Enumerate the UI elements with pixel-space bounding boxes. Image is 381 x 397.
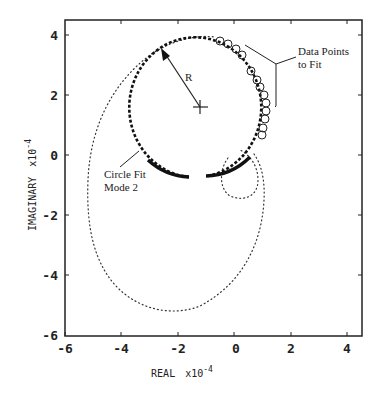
y-tick-label: 0 [50, 148, 58, 163]
x-tick-label: 2 [287, 341, 295, 356]
radius-arrow-line [164, 52, 200, 107]
y-tick-label: -4 [42, 268, 58, 283]
data-points-to-fit [216, 37, 270, 139]
y-tick-label: -6 [42, 328, 58, 343]
circle-fit-label-line2: Mode 2 [104, 181, 138, 193]
y-tick-label: -2 [42, 208, 58, 223]
x-tick-label: -2 [170, 341, 186, 356]
y-axis-title: IMAGINARY x10-4 [24, 139, 38, 231]
nyquist-plot: -6 -4 -2 0 2 4 4 2 0 -2 -4 -6 REAL x10-4… [0, 0, 381, 397]
y-tick-label: 2 [50, 88, 58, 103]
y-ticks [65, 35, 362, 275]
x-tick-label: 4 [343, 341, 351, 356]
radius-label: R [185, 71, 193, 83]
x-tick-label: -6 [57, 341, 73, 356]
data-points-leader [245, 45, 296, 107]
x-axis-title: REAL x10-4 [151, 365, 213, 379]
fit-circle-arc-bottom-right [206, 157, 250, 176]
data-points-label-line1: Data Points [298, 45, 349, 57]
y-tick-label: 4 [50, 28, 58, 43]
circle-fit-leader [120, 151, 139, 167]
data-points-label-line2: to Fit [298, 58, 322, 70]
circle-center-marker [193, 100, 208, 114]
fit-circle-arc-bottom-left [148, 160, 189, 177]
x-tick-label: 0 [232, 341, 240, 356]
x-tick-label: -4 [113, 341, 129, 356]
small-dotted-loop [222, 150, 259, 198]
circle-fit-label-line1: Circle Fit [104, 168, 146, 180]
